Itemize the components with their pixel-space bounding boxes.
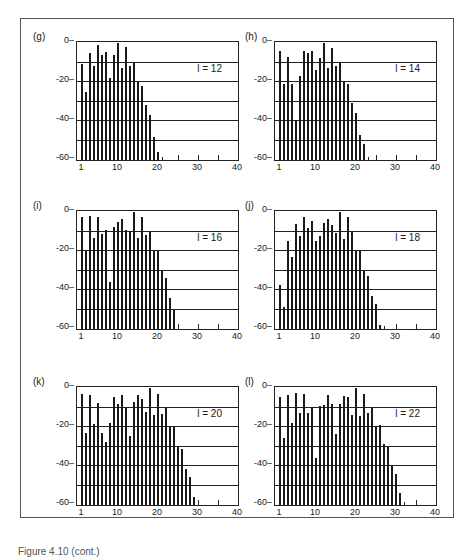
stem <box>323 405 325 505</box>
stem <box>315 70 317 160</box>
x-tick-mark <box>218 500 219 505</box>
stem <box>169 298 171 329</box>
x-tick-mark <box>436 324 437 329</box>
y-tick-label: -60– <box>48 321 74 331</box>
stem <box>291 423 293 505</box>
stem <box>93 424 95 505</box>
x-tick-label: 1 <box>269 507 289 517</box>
stem <box>129 436 131 505</box>
stem <box>105 442 107 505</box>
x-tick-label: 10 <box>305 331 325 341</box>
stem <box>157 152 159 160</box>
x-tick-label: 30 <box>187 331 207 341</box>
panel-label: (k) <box>33 376 45 387</box>
stem <box>367 276 369 329</box>
chart-panel-i: (i)l = 160–-20–-40–-60–110203040 <box>33 205 238 355</box>
stem <box>299 236 301 329</box>
stem <box>121 395 123 505</box>
l-value-annotation: l = 22 <box>393 408 422 419</box>
stem <box>153 137 155 160</box>
y-tick-label: -20– <box>48 243 74 253</box>
x-tick-mark <box>162 157 163 160</box>
stem <box>295 224 297 329</box>
y-tick-label: -20– <box>246 74 272 84</box>
stem <box>279 285 281 329</box>
stem <box>89 395 91 505</box>
stem <box>161 414 163 505</box>
stem <box>97 45 99 160</box>
stem <box>193 497 195 505</box>
stem <box>121 68 123 160</box>
stem <box>399 493 401 505</box>
stem <box>145 412 147 505</box>
x-tick-mark <box>396 155 397 160</box>
y-tick-label: -20– <box>48 74 74 84</box>
x-tick-label: 1 <box>71 507 91 517</box>
stem <box>391 466 393 505</box>
stem <box>379 425 381 505</box>
stem <box>133 63 135 161</box>
x-tick-mark <box>384 326 385 329</box>
stem <box>295 393 297 505</box>
stem <box>283 438 285 505</box>
x-tick-mark <box>436 155 437 160</box>
stem <box>279 51 281 160</box>
stem <box>117 222 119 329</box>
stem <box>343 396 345 505</box>
stem <box>109 423 111 505</box>
stem <box>279 397 281 505</box>
stem <box>101 433 103 505</box>
stem <box>319 406 321 505</box>
stem <box>355 388 357 505</box>
y-tick-label: -60– <box>48 152 74 162</box>
stem <box>113 55 115 160</box>
stem <box>303 51 305 160</box>
stem <box>105 230 107 329</box>
y-tick-label: -40– <box>246 282 272 292</box>
stem <box>331 404 333 505</box>
panel-label: (g) <box>33 31 45 42</box>
x-tick-label: 1 <box>269 162 289 172</box>
stem <box>335 233 337 329</box>
stem <box>173 426 175 505</box>
x-tick-label: 1 <box>71 331 91 341</box>
stem <box>283 307 285 329</box>
y-tick-label: -20– <box>48 419 74 429</box>
chart-panel-g: (g)l = 120–-20–-40–-60–110203040 <box>33 36 238 186</box>
stem <box>347 217 349 329</box>
x-tick-label: 40 <box>227 162 247 172</box>
stem <box>177 446 179 505</box>
stem <box>105 52 107 160</box>
chart-panel-k: (k)l = 200–-20–-40–-60–110203040 <box>33 381 238 531</box>
plot-area: l = 18 <box>274 210 437 330</box>
stem <box>327 395 329 505</box>
y-tick-label: 0– <box>246 35 272 45</box>
x-tick-mark <box>238 155 239 160</box>
plot-area: l = 16 <box>76 210 239 330</box>
stem <box>331 48 333 160</box>
stem <box>315 458 317 505</box>
stem <box>101 55 103 160</box>
stem <box>343 239 345 329</box>
stem <box>343 82 345 160</box>
x-tick-label: 1 <box>269 331 289 341</box>
stem <box>375 304 377 329</box>
stem <box>347 84 349 160</box>
stem <box>165 278 167 329</box>
stem <box>311 221 313 329</box>
x-tick-label: 10 <box>305 162 325 172</box>
x-tick-mark <box>404 502 405 505</box>
stem <box>169 426 171 505</box>
x-tick-mark <box>238 324 239 329</box>
stem <box>371 296 373 329</box>
stem <box>137 238 139 329</box>
stem <box>137 82 139 160</box>
x-tick-label: 10 <box>107 331 127 341</box>
stem <box>149 388 151 505</box>
stem <box>157 251 159 329</box>
stem <box>359 135 361 160</box>
x-tick-mark <box>178 155 179 160</box>
chart-panel-j: (j)l = 180–-20–-40–-60–110203040 <box>245 205 450 355</box>
stem <box>101 234 103 329</box>
stem <box>189 477 191 505</box>
